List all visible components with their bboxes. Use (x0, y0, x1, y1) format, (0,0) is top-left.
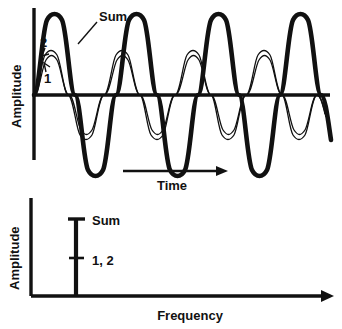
wave1-annotation-label: 1 (44, 71, 51, 86)
wave2-annotation-label: 2 (40, 35, 47, 50)
frequency-y-axis-label: Amplitude (7, 226, 22, 290)
time-x-axis-label: Time (157, 178, 187, 193)
signal-addition-figure: Amplitude Sum 2 1 Time Amplitude Sum 1, … (0, 0, 342, 329)
figure-canvas: Amplitude Sum 2 1 Time Amplitude Sum 1, … (0, 0, 342, 329)
sum-leader-line (78, 22, 97, 44)
time-domain-plot (34, 8, 331, 176)
time-arrow-head (216, 166, 228, 176)
spectrum-sum-label: Sum (92, 213, 120, 228)
time-y-axis-label: Amplitude (9, 64, 24, 128)
frequency-x-axis-label: Frequency (157, 308, 224, 323)
frequency-domain-plot (31, 198, 334, 302)
spectrum-components-label: 1, 2 (92, 253, 114, 268)
sum-annotation-label: Sum (99, 9, 127, 24)
frequency-arrow-head (321, 290, 334, 302)
